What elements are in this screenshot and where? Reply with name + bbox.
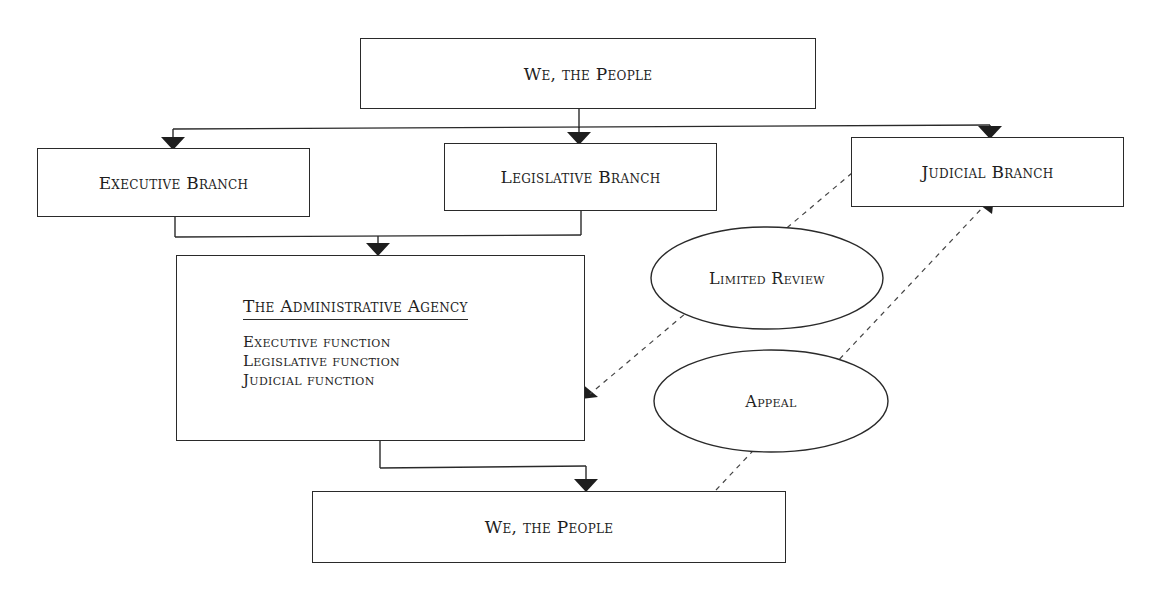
agency-function-judicial: Judicial function	[243, 371, 468, 390]
we-the-people-top-label: We, the People	[524, 64, 653, 84]
executive-branch-label: Executive Branch	[99, 173, 249, 193]
administrative-agency-box: The Administrative Agency Executive func…	[176, 255, 585, 441]
limited-review-label: Limited Review	[651, 258, 883, 298]
we-the-people-bottom-label: We, the People	[485, 517, 614, 537]
executive-branch-box: Executive Branch	[37, 148, 310, 217]
judicial-branch-label: Judicial Branch	[921, 162, 1053, 182]
agency-function-list: Executive function Legislative function …	[243, 333, 468, 390]
legislative-branch-box: Legislative Branch	[444, 143, 717, 211]
judicial-branch-box: Judicial Branch	[851, 137, 1124, 207]
agency-function-legislative: Legislative function	[243, 352, 468, 371]
we-the-people-bottom-box: We, the People	[312, 491, 786, 563]
appeal-label: Appeal	[654, 381, 888, 421]
agency-function-executive: Executive function	[243, 333, 468, 352]
legislative-branch-label: Legislative Branch	[501, 167, 661, 187]
administrative-agency-title: The Administrative Agency	[243, 296, 468, 320]
we-the-people-top-box: We, the People	[360, 38, 816, 109]
